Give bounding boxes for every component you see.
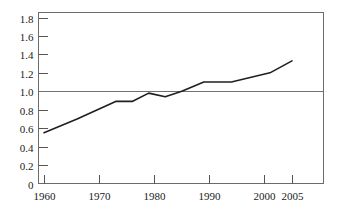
y-tick-label: 0.4 [20,142,34,154]
plot-area-frame [39,13,324,184]
y-tick-label: 1.2 [20,68,34,80]
x-tick-label: 1980 [144,190,167,202]
chart-container: 00.20.40.60.81.01.21.41.61.8 19601970198… [0,0,341,213]
x-tick-label: 2005 [282,190,305,202]
y-tick-label: 0.2 [20,160,34,172]
y-tick-label: 1.8 [20,13,34,25]
y-tick-label: 1.6 [20,31,34,43]
y-tick-label: 0.8 [20,105,34,117]
x-tick-label: 1970 [89,190,112,202]
x-tick-label: 1960 [34,190,57,202]
line-chart: 00.20.40.60.81.01.21.41.61.8 19601970198… [0,0,341,213]
y-tick-label: 0.6 [20,123,34,135]
x-tick-label: 1990 [199,190,222,202]
y-tick-label: 1.0 [20,86,34,98]
y-tick-label: 1.4 [20,49,34,61]
x-tick-label: 2000 [254,190,277,202]
